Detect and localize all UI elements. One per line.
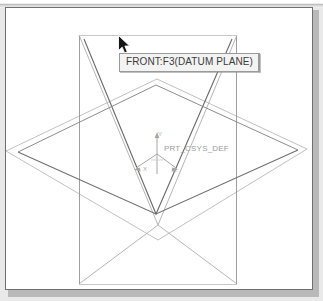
datum-plane-geometry bbox=[6, 8, 312, 289]
y-axis-label: Y bbox=[158, 131, 162, 137]
datum-plane-tooltip: FRONT:F3(DATUM PLANE) bbox=[119, 53, 260, 72]
x-axis-label: X bbox=[143, 166, 147, 172]
right-datum-plane[interactable] bbox=[79, 35, 237, 284]
coordinate-system-triad[interactable] bbox=[134, 132, 178, 174]
figure-container: PRT_CSYS_DEF Y X Z FRONT:F3(DATUM PLANE) bbox=[0, 0, 323, 301]
coordinate-system-label: PRT_CSYS_DEF bbox=[164, 144, 229, 153]
z-axis-label: Z bbox=[173, 167, 177, 173]
model-viewport[interactable]: PRT_CSYS_DEF Y X Z FRONT:F3(DATUM PLANE) bbox=[5, 7, 313, 290]
